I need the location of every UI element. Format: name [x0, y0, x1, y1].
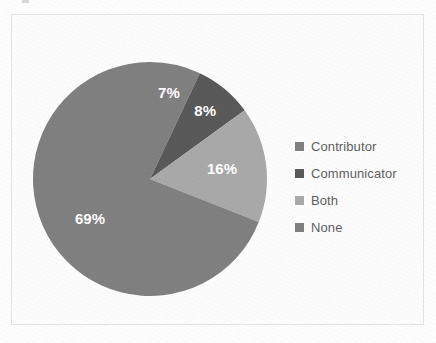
chart-frame: 7% 8% 16% 69% Contributor Communicator B… — [11, 14, 424, 325]
pie-chart-screenshot: 7% 8% 16% 69% Contributor Communicator B… — [0, 0, 436, 343]
legend-item-communicator[interactable]: Communicator — [295, 160, 435, 187]
legend-item-contributor[interactable]: Contributor — [295, 133, 435, 160]
legend-swatch-icon — [295, 169, 304, 178]
pie-label-none: 69% — [75, 210, 105, 227]
scan-artifact — [22, 0, 29, 3]
pie-chart-area: 7% 8% 16% 69% — [30, 59, 270, 299]
pie-label-both: 16% — [207, 160, 237, 177]
pie-slices — [33, 62, 267, 296]
pie-label-contributor: 7% — [158, 84, 180, 101]
legend-item-both[interactable]: Both — [295, 187, 435, 214]
legend-item-label: Communicator — [311, 166, 397, 181]
chart-legend: Contributor Communicator Both None — [295, 133, 435, 241]
pie-chart-svg: 7% 8% 16% 69% — [30, 59, 270, 299]
pie-label-communicator: 8% — [194, 102, 216, 119]
legend-swatch-icon — [295, 223, 304, 232]
legend-swatch-icon — [295, 196, 304, 205]
legend-item-none[interactable]: None — [295, 214, 435, 241]
legend-item-label: None — [311, 220, 342, 235]
legend-swatch-icon — [295, 142, 304, 151]
legend-item-label: Contributor — [311, 139, 376, 154]
legend-item-label: Both — [311, 193, 338, 208]
